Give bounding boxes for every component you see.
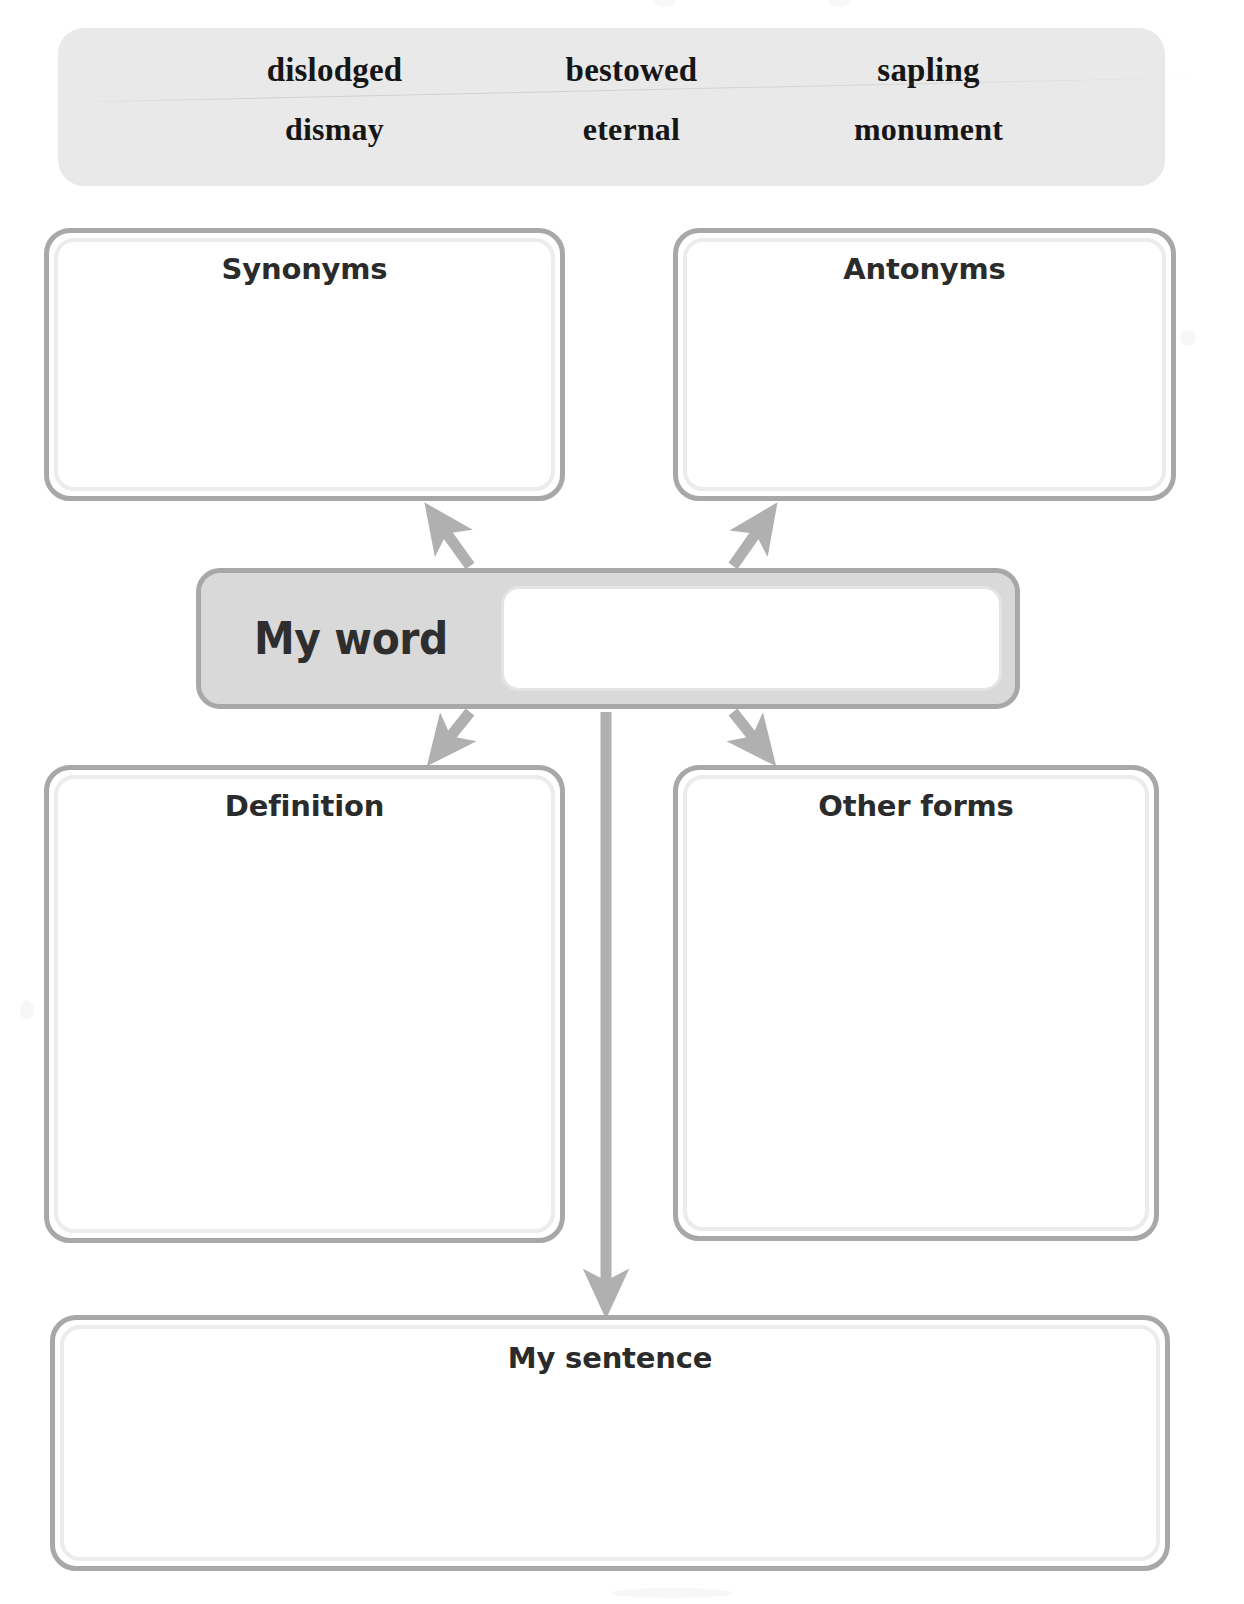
- antonyms-label: Antonyms: [687, 254, 1162, 284]
- arrow-to-antonyms: [733, 513, 770, 566]
- word-bank-word[interactable]: eternal: [483, 111, 780, 148]
- my-word-input[interactable]: [501, 586, 1002, 691]
- my-word-box: My word: [196, 568, 1020, 709]
- my-sentence-box-inner[interactable]: My sentence: [60, 1325, 1160, 1561]
- my-sentence-label: My sentence: [64, 1343, 1156, 1373]
- word-bank: dislodged bestowed sapling dismay eterna…: [58, 28, 1165, 186]
- synonyms-box[interactable]: Synonyms: [44, 228, 565, 501]
- scan-artifact: [828, 0, 850, 7]
- my-sentence-box[interactable]: My sentence: [50, 1315, 1170, 1571]
- paper-speckle: [20, 1000, 34, 1020]
- word-bank-word[interactable]: dislodged: [186, 52, 483, 89]
- word-bank-word[interactable]: bestowed: [483, 52, 780, 89]
- other-forms-box[interactable]: Other forms: [673, 765, 1159, 1241]
- word-bank-word[interactable]: monument: [780, 111, 1077, 148]
- arrow-to-definition: [435, 712, 470, 756]
- my-word-label: My word: [212, 613, 491, 664]
- definition-label: Definition: [58, 791, 551, 821]
- word-bank-word[interactable]: dismay: [186, 111, 483, 148]
- paper-speckle: [612, 1588, 732, 1598]
- other-forms-label: Other forms: [687, 791, 1145, 821]
- definition-box[interactable]: Definition: [44, 765, 565, 1243]
- worksheet-page: dislodged bestowed sapling dismay eterna…: [0, 0, 1244, 1604]
- scan-artifact: [654, 0, 676, 7]
- other-forms-box-inner[interactable]: Other forms: [683, 775, 1149, 1231]
- paper-speckle: [1180, 330, 1196, 346]
- word-bank-word[interactable]: sapling: [780, 52, 1077, 89]
- arrow-to-other-forms: [733, 712, 768, 756]
- definition-box-inner[interactable]: Definition: [54, 775, 555, 1233]
- word-bank-row: dismay eternal monument: [58, 111, 1165, 148]
- word-bank-row: dislodged bestowed sapling: [58, 52, 1165, 89]
- arrow-to-synonyms: [432, 513, 470, 566]
- synonyms-box-inner[interactable]: Synonyms: [54, 238, 555, 491]
- antonyms-box-inner[interactable]: Antonyms: [683, 238, 1166, 491]
- antonyms-box[interactable]: Antonyms: [673, 228, 1176, 501]
- synonyms-label: Synonyms: [58, 254, 551, 284]
